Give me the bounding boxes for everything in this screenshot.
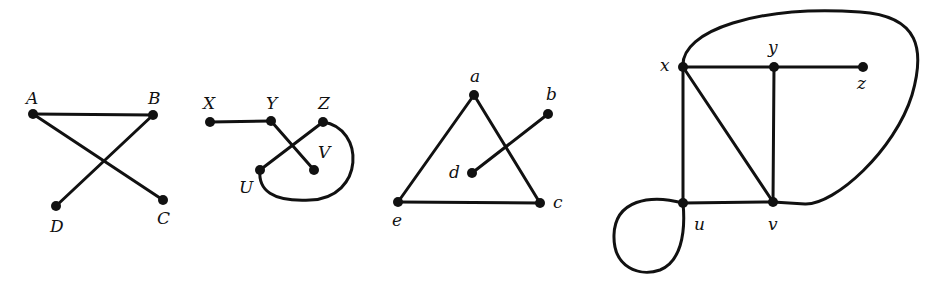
vertex-label-u: u <box>694 214 705 234</box>
vertex-label-c: c <box>553 192 563 212</box>
edge-x-v-curved <box>683 11 918 204</box>
vertex-v <box>768 197 778 207</box>
vertex-label-e: e <box>392 210 402 230</box>
vertex-D <box>51 201 61 211</box>
vertex-U <box>255 165 265 175</box>
vertex-label-U: U <box>239 177 254 197</box>
vertex-label-v: v <box>768 214 778 234</box>
edge-Z-U <box>260 122 323 170</box>
vertex-y <box>769 62 779 72</box>
edge-A-B <box>33 114 153 115</box>
edge-a-e <box>398 95 474 202</box>
vertex-b <box>543 109 553 119</box>
edge-u-v <box>683 202 773 203</box>
vertex-A <box>28 109 38 119</box>
loop-edge-u <box>614 199 684 272</box>
vertex-label-A: A <box>24 88 38 108</box>
graph-figure: ABCDXYZUVabcdexyzuv <box>0 0 944 296</box>
vertex-Z <box>318 117 328 127</box>
vertex-d <box>467 168 477 178</box>
edge-y-v <box>773 67 774 202</box>
vertex-e <box>393 197 403 207</box>
vertex-label-z: z <box>856 73 867 93</box>
vertex-label-D: D <box>49 216 64 236</box>
vertex-Y <box>266 116 276 126</box>
edge-A-C <box>33 114 163 200</box>
vertex-label-d: d <box>449 162 460 182</box>
vertex-a <box>469 90 479 100</box>
edge-x-v <box>683 67 773 202</box>
vertex-label-Z: Z <box>317 93 331 113</box>
vertex-label-b: b <box>546 84 557 104</box>
vertex-u <box>678 198 688 208</box>
vertex-label-y: y <box>767 37 778 57</box>
vertex-label-Y: Y <box>266 93 279 113</box>
edge-X-Y <box>210 121 271 122</box>
vertex-z <box>858 62 868 72</box>
vertex-label-x: x <box>660 55 670 75</box>
edge-e-c <box>398 202 540 203</box>
vertex-X <box>205 117 215 127</box>
vertex-C <box>158 195 168 205</box>
vertex-B <box>148 110 158 120</box>
vertex-label-a: a <box>470 66 480 86</box>
vertex-label-X: X <box>201 93 216 113</box>
vertex-label-V: V <box>318 142 332 162</box>
vertex-x <box>678 62 688 72</box>
vertex-label-C: C <box>157 208 170 228</box>
edges-layer <box>33 11 918 272</box>
vertex-c <box>535 198 545 208</box>
nodes-layer <box>28 62 868 211</box>
edge-d-b <box>472 114 548 173</box>
vertex-label-B: B <box>147 88 161 108</box>
edge-a-c <box>474 95 540 203</box>
vertex-V <box>309 165 319 175</box>
edge-B-D <box>56 115 153 206</box>
